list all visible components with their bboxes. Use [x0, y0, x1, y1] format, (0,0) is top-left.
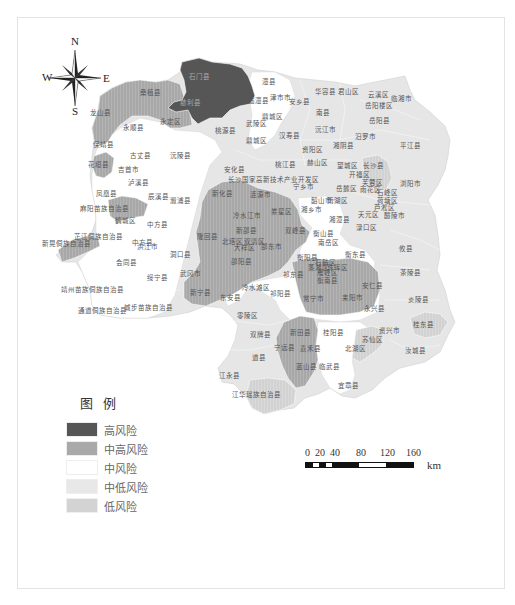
- region-label: 衡南县: [317, 278, 338, 285]
- region-label: 城步苗族自治县: [124, 305, 173, 312]
- region-label: 雁峰区: [317, 270, 338, 277]
- scale-tick: 160: [406, 447, 421, 458]
- region-label: 桃源县: [215, 128, 236, 135]
- scale-ticks: 0 20 40 80 120 160: [305, 447, 445, 459]
- region-label: 冷水江市: [233, 213, 261, 220]
- legend-swatch-high: [66, 422, 98, 437]
- region-label: 临澧县: [248, 98, 269, 105]
- region-label: 祁东县: [283, 272, 304, 279]
- region-label: 绥宁县: [147, 275, 168, 282]
- legend-title: 图例: [80, 393, 148, 412]
- region-label: 泸溪县: [128, 180, 149, 187]
- region-label: 汨罗市: [355, 134, 376, 141]
- region-label: 北湖区: [345, 346, 366, 353]
- region-label: 长沙县: [363, 163, 384, 170]
- region-label: 永兴县: [364, 306, 385, 313]
- region-label: 慈利县: [180, 100, 201, 107]
- region-label: 渌口区: [356, 225, 377, 232]
- region-label: 蓝山县: [296, 364, 317, 371]
- region-label: 湘潭县: [329, 217, 350, 224]
- region-label: 南县: [316, 110, 330, 117]
- region-label: 南岳区: [318, 240, 339, 247]
- region-label: 保靖县: [93, 142, 114, 149]
- legend-label: 中低风险: [104, 479, 148, 495]
- region-label: 资阳区: [302, 147, 323, 154]
- region-label: 安化县: [224, 167, 245, 174]
- region-label: 安乡县: [289, 99, 310, 106]
- map-legend: 图例 高风险 中高风险 中风险 中低风险 低风险: [66, 393, 148, 515]
- compass-south-label: S: [72, 105, 78, 117]
- region-label: 岳阳楼区: [365, 103, 393, 110]
- legend-item-low: 低风险: [66, 496, 148, 515]
- region-label: 湘阴县: [333, 143, 354, 150]
- legend-swatch-mid-high: [66, 441, 98, 456]
- region-label: 吉首市: [118, 167, 139, 174]
- region-label: 石峰区: [377, 190, 398, 197]
- region-label: 辰溪县: [148, 194, 169, 201]
- region-label: 天元区: [358, 212, 379, 219]
- legend-item-high: 高风险: [66, 420, 148, 439]
- region-label: 安仁县: [362, 283, 383, 290]
- region-label: 衡东县: [345, 252, 366, 259]
- region-label: 大祥区: [234, 245, 255, 252]
- region-label: 道县: [252, 355, 266, 362]
- legend-label: 高风险: [104, 422, 137, 438]
- region-label: 新晃侗族自治县: [42, 241, 91, 248]
- region-label: 开福区: [349, 172, 370, 179]
- region-label: 平江县: [400, 143, 421, 150]
- region-label: 溆浦县: [170, 198, 191, 205]
- region-label: 江华瑶族自治县: [232, 392, 281, 399]
- region-label: 临湘市: [391, 96, 412, 103]
- legend-item-mid-low: 中低风险: [66, 477, 148, 496]
- scale-tick: 20: [315, 447, 325, 458]
- region-label: 茶陵县: [400, 270, 421, 277]
- scale-bar: 0 20 40 80 120 160 km: [305, 447, 445, 468]
- region-label: 新宁县: [190, 290, 211, 297]
- region-label: 新邵县: [236, 228, 257, 235]
- region-label: 涟源市: [250, 192, 271, 199]
- region-label: 桃江县: [275, 162, 296, 169]
- region-label: 耒阳市: [342, 295, 363, 302]
- region-label: 云溪区: [368, 92, 389, 99]
- legend-label: 低风险: [104, 498, 137, 514]
- region-label: 资兴市: [379, 328, 400, 335]
- region-label: 桑植县: [140, 90, 161, 97]
- region-label: 苏仙区: [362, 337, 383, 344]
- region-label: 汝城县: [405, 348, 426, 355]
- region-label: 永顺县: [123, 125, 144, 132]
- legend-label: 中高风险: [104, 441, 148, 457]
- legend-swatch-mid-low: [66, 479, 98, 494]
- region-label: 汉寿县: [279, 133, 300, 140]
- region-label: 新化县: [212, 191, 233, 198]
- region-label: 靖州苗族侗族自治县: [61, 287, 124, 294]
- region-label: 双牌县: [250, 332, 271, 339]
- region-label: 临武县: [319, 364, 340, 371]
- region-label: 华容县: [315, 89, 336, 96]
- region-label: 岳阳县: [369, 118, 390, 125]
- region-label: 冷水滩区: [242, 285, 270, 292]
- scale-bar-graphic: [305, 462, 414, 468]
- region-label: 邵东市: [261, 244, 282, 251]
- region-label: 江永县: [219, 373, 240, 380]
- region-label: 零陵区: [237, 313, 258, 320]
- region-label: 赫山区: [307, 160, 328, 167]
- compass-east-label: E: [103, 72, 110, 84]
- scale-tick: 120: [380, 447, 395, 458]
- region-label: 桂东县: [413, 322, 434, 329]
- region-label: 澧县: [262, 79, 276, 86]
- region-label: 洪江市: [137, 244, 158, 251]
- scale-unit: km: [427, 459, 441, 471]
- region-label: 津市市: [270, 95, 291, 102]
- region-label: 炎陵县: [408, 297, 429, 304]
- scale-tick: 0: [305, 447, 310, 458]
- legend-swatch-mid: [66, 460, 98, 475]
- region-label: 攸县: [399, 246, 413, 253]
- region-label: 邵阳县: [231, 259, 252, 266]
- region-label: 桂阳县: [323, 330, 344, 337]
- region-label: 宜章县: [338, 383, 359, 390]
- region-label: 君山区: [338, 89, 359, 96]
- region-label: 宁乡市: [293, 184, 314, 191]
- region-label: 雨湖区: [327, 198, 348, 205]
- scale-tick: 80: [356, 447, 366, 458]
- region-label: 洞口县: [170, 252, 191, 259]
